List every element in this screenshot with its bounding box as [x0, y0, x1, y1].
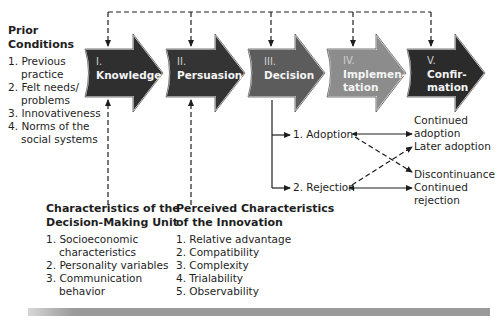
stage-numeral-decision: III.	[264, 56, 276, 67]
stage-numeral-persuasion: II.	[177, 56, 186, 67]
decision-unit-item-cont: characteristics	[46, 246, 180, 259]
bottom-dashed-connectors	[108, 100, 191, 205]
stage-label-confirmation-2: mation	[427, 81, 468, 94]
innovation-block: Perceived Characteristics of the Innovat…	[176, 202, 334, 298]
innovation-item: 3. Complexity	[176, 259, 334, 272]
decision-unit-item: 1. Socioeconomic	[46, 233, 180, 246]
innovation-title-2: of the Innovation	[176, 216, 334, 230]
result-continued-adoption-1: Continued	[414, 114, 468, 127]
bottom-rule-bar	[28, 308, 490, 316]
prior-condition-item: 4. Norms of the	[8, 120, 101, 133]
prior-condition-item-cont: problems	[8, 94, 101, 107]
stage-label-persuasion: Persuasion	[177, 69, 242, 82]
top-dashed-connector	[108, 12, 431, 46]
decision-unit-title-2: Decision-Making Unit	[46, 216, 180, 230]
result-later-adoption: Later adoption	[414, 140, 491, 153]
innovation-item: 4. Trialability	[176, 272, 334, 285]
decision-unit-item-cont: behavior	[46, 285, 180, 298]
innovation-item: 2. Compatibility	[176, 246, 334, 259]
stage-label-confirmation-1: Confir-	[427, 68, 467, 81]
prior-conditions-title-2: Conditions	[8, 38, 101, 52]
stage-numeral-confirmation: V.	[427, 55, 436, 66]
decision-unit-title-1: Characteristics of the	[46, 202, 180, 216]
stage-numeral-implementation: IV.	[343, 55, 355, 66]
result-continued-adoption-2: adoption	[414, 127, 460, 140]
stage-label-implementation-2: tation	[343, 81, 378, 94]
decision-unit-item: 3. Communication	[46, 272, 180, 285]
prior-condition-item: 2. Felt needs/	[8, 81, 101, 94]
innovation-item: 5. Observability	[176, 285, 334, 298]
prior-condition-item: 3. Innovativeness	[8, 107, 101, 120]
stage-label-implementation-1: Implemen-	[343, 68, 406, 81]
stage-label-decision: Decision	[264, 69, 314, 82]
decision-unit-item: 2. Personality variables	[46, 259, 180, 272]
outcome-rejection: 2. Rejection	[293, 181, 355, 194]
prior-condition-item: 1. Previous	[8, 55, 101, 68]
innovation-title-1: Perceived Characteristics	[176, 202, 334, 216]
decision-branch-lines	[272, 100, 412, 191]
stage-label-knowledge: Knowledge	[96, 69, 161, 82]
prior-condition-item-cont: practice	[8, 68, 101, 81]
prior-conditions-block: Prior Conditions 1. Previous practice 2.…	[8, 24, 101, 146]
result-continued-rejection-2: rejection	[414, 194, 460, 207]
crossing-dashed-lines	[352, 137, 412, 185]
prior-condition-item-cont: social systems	[8, 133, 101, 146]
stage-numeral-knowledge: I.	[96, 56, 102, 67]
result-continued-rejection-1: Continued	[414, 181, 468, 194]
result-discontinuance: Discontinuance	[414, 168, 495, 181]
decision-unit-block: Characteristics of the Decision-Making U…	[46, 202, 180, 298]
innovation-item: 1. Relative advantage	[176, 233, 334, 246]
outcome-adoption: 1. Adoption	[293, 128, 353, 141]
prior-conditions-title-1: Prior	[8, 24, 101, 38]
